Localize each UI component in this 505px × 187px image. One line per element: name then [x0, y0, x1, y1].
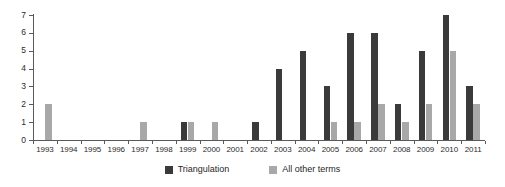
x-tick-9 [247, 141, 248, 144]
x-tick-4 [128, 141, 129, 144]
legend-swatch-icon [165, 166, 173, 174]
x-tick-15 [390, 141, 391, 144]
bar-1993-all-other-terms [45, 104, 52, 140]
bar-2005-all-other-terms [331, 122, 338, 140]
bar-2000-all-other-terms [212, 122, 219, 140]
x-tick-7 [200, 141, 201, 144]
y-axis-label-1: 1 [12, 118, 26, 126]
x-tick-14 [366, 141, 367, 144]
x-tick-1 [57, 141, 58, 144]
y-axis-label-3: 3 [12, 82, 26, 90]
legend-label: All other terms [282, 165, 340, 174]
y-axis-label-5: 5 [12, 46, 26, 54]
x-tick-2 [81, 141, 82, 144]
legend-swatch-icon [269, 166, 277, 174]
x-tick-8 [223, 141, 224, 144]
legend-item-all-other-terms[interactable]: All other terms [269, 165, 340, 174]
bar-2011-triangulation [466, 86, 473, 140]
y-axis-label-0: 0 [12, 136, 26, 144]
x-tick-0 [33, 141, 34, 144]
bar-2008-triangulation [395, 104, 402, 140]
bar-2009-all-other-terms [426, 104, 433, 140]
x-tick-10 [271, 141, 272, 144]
bar-2007-all-other-terms [378, 104, 385, 140]
x-tick-12 [318, 141, 319, 144]
x-tick-16 [414, 141, 415, 144]
x-tick-3 [104, 141, 105, 144]
plot-area [33, 15, 485, 140]
x-tick-13 [342, 141, 343, 144]
bar-1999-all-other-terms [188, 122, 195, 140]
y-axis-label-4: 4 [12, 64, 26, 72]
bar-2002-triangulation [252, 122, 259, 140]
legend-item-triangulation[interactable]: Triangulation [165, 165, 230, 174]
y-axis-label-7: 7 [12, 11, 26, 19]
bar-2010-triangulation [443, 15, 450, 140]
x-tick-11 [295, 141, 296, 144]
bar-2009-triangulation [419, 51, 426, 140]
bar-2010-all-other-terms [450, 51, 457, 140]
bar-2006-all-other-terms [354, 122, 361, 140]
bar-2007-triangulation [371, 33, 378, 140]
y-axis-label-2: 2 [12, 100, 26, 108]
bar-2008-all-other-terms [402, 122, 409, 140]
x-tick-19 [485, 141, 486, 144]
bar-2004-triangulation [300, 51, 307, 140]
bar-2011-all-other-terms [473, 104, 480, 140]
x-tick-5 [152, 141, 153, 144]
bar-2003-triangulation [276, 69, 283, 140]
x-axis-line [33, 140, 485, 141]
legend-label: Triangulation [178, 165, 230, 174]
bar-2005-triangulation [324, 86, 331, 140]
x-tick-18 [461, 141, 462, 144]
x-tick-6 [176, 141, 177, 144]
bar-1999-triangulation [181, 122, 188, 140]
bar-1997-all-other-terms [140, 122, 147, 140]
chart-legend: TriangulationAll other terms [0, 165, 505, 174]
bar-2006-triangulation [347, 33, 354, 140]
bar-chart: 01234567 1993199419951996199719981999200… [0, 0, 505, 187]
x-tick-17 [437, 141, 438, 144]
y-axis-label-6: 6 [12, 28, 26, 36]
x-axis-label-2011: 2011 [458, 145, 488, 155]
